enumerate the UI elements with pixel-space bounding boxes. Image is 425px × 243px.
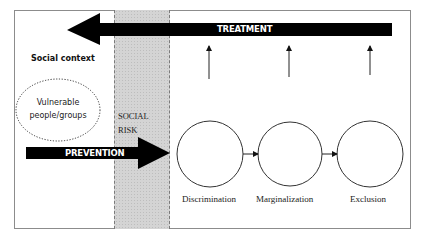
stage-label-marginalization: Marginalization — [256, 194, 313, 204]
treatment-label: TREATMENT — [217, 24, 272, 34]
social-context-label: Social context — [31, 54, 95, 63]
stage-circle-exclusion — [337, 121, 403, 187]
vulnerable-line1: Vulnerable — [16, 96, 100, 109]
treatment-up-arrows — [209, 46, 370, 79]
vulnerable-group-label: Vulnerable people/groups — [16, 96, 100, 122]
stage-circle-discrimination — [177, 121, 243, 187]
vulnerable-line2: people/groups — [16, 109, 100, 122]
social-risk-line1: SOCIAL — [118, 109, 149, 123]
prevention-label: PREVENTION — [65, 148, 124, 158]
social-risk-label: SOCIAL RISK — [118, 109, 149, 137]
stage-circle-marginalization — [258, 122, 322, 186]
social-risk-line2: RISK — [118, 123, 149, 137]
stage-label-exclusion: Exclusion — [350, 194, 386, 204]
stage-label-discrimination: Discrimination — [182, 194, 236, 204]
